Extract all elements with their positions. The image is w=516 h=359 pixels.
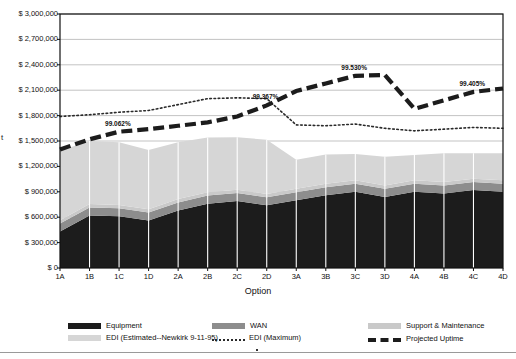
y-axis-tick: $ 2,700,000 xyxy=(0,35,58,43)
legend-item-projected-uptime: Projected Uptime xyxy=(368,333,464,343)
x-axis-tick: 4C xyxy=(461,272,485,281)
legend-label-support-maintenance: Support & Maintenance xyxy=(406,321,484,330)
legend-dotted-line-edi-maximum-icon xyxy=(212,333,245,341)
legend-footnote-dot-icon xyxy=(256,349,258,351)
y-axis-tick: $ 0 xyxy=(0,264,58,272)
legend-item-support-maintenance: Support & Maintenance xyxy=(368,321,484,330)
cost-option-area-chart: $ 0$ 300,000$ 600,000$ 900,000$ 1,200,00… xyxy=(0,0,516,359)
x-axis-title: Option xyxy=(0,286,516,296)
legend-swatch-equipment-icon xyxy=(68,323,101,329)
x-axis-tick: 2D xyxy=(255,272,279,281)
legend-item-edi-estimated: EDI (Estimated--Newkirk 9-11-95) xyxy=(68,333,218,342)
x-axis-tick: 3A xyxy=(284,272,308,281)
y-axis-tick: $ 900,000 xyxy=(0,188,58,196)
x-axis-tick: 2C xyxy=(225,272,249,281)
x-axis-tick: 1D xyxy=(137,272,161,281)
y-axis-tick-labels: $ 0$ 300,000$ 600,000$ 900,000$ 1,200,00… xyxy=(0,0,58,359)
x-axis-tick: 4A xyxy=(402,272,426,281)
x-axis-tick: 1B xyxy=(78,272,102,281)
x-axis-tick: 3C xyxy=(343,272,367,281)
legend-swatch-wan-icon xyxy=(212,323,245,329)
legend-dashed-line-projected-uptime-icon xyxy=(368,332,401,342)
legend-swatch-edi-estimated-icon xyxy=(68,335,101,341)
legend-label-edi-estimated: EDI (Estimated--Newkirk 9-11-95) xyxy=(106,333,218,342)
x-axis-tick: 1C xyxy=(107,272,131,281)
legend-label-projected-uptime: Projected Uptime xyxy=(406,334,464,343)
bottom-divider xyxy=(0,352,516,353)
legend-label-equipment: Equipment xyxy=(106,321,142,330)
y-axis-tick: $ 1,800,000 xyxy=(0,112,58,120)
y-axis-tick: $ 1,500,000 xyxy=(0,137,58,145)
plot-area xyxy=(0,0,516,359)
uptime-percent-label: 99.062% xyxy=(105,120,131,127)
x-axis-tick: 1A xyxy=(48,272,72,281)
legend-label-edi-maximum: EDI (Maximum) xyxy=(249,333,301,342)
x-axis-tick: 3D xyxy=(373,272,397,281)
uptime-percent-label: 99.530% xyxy=(341,64,367,71)
x-axis-tick: 2B xyxy=(196,272,220,281)
y-axis-tick: $ 3,000,000 xyxy=(0,10,58,18)
uptime-percent-label: 99.405% xyxy=(459,80,485,87)
y-axis-tick: $ 1,200,000 xyxy=(0,162,58,170)
legend-label-wan: WAN xyxy=(250,321,267,330)
chart-legend: Equipment EDI (Estimated--Newkirk 9-11-9… xyxy=(0,318,516,350)
y-axis-tick: $ 2,400,000 xyxy=(0,61,58,69)
x-axis-tick: 4B xyxy=(432,272,456,281)
legend-swatch-support-icon xyxy=(368,323,401,329)
x-axis-tick: 2A xyxy=(166,272,190,281)
x-axis-tick: 4D xyxy=(491,272,515,281)
legend-item-wan: WAN xyxy=(212,321,267,330)
legend-item-edi-maximum: EDI (Maximum) xyxy=(212,333,301,342)
x-axis-tick: 3B xyxy=(314,272,338,281)
legend-item-equipment: Equipment xyxy=(68,321,142,330)
uptime-percent-label: 99.367% xyxy=(253,93,279,100)
y-axis-tick: $ 300,000 xyxy=(0,239,58,247)
y-axis-title: t xyxy=(1,133,3,142)
y-axis-tick: $ 600,000 xyxy=(0,213,58,221)
y-axis-tick: $ 2,100,000 xyxy=(0,86,58,94)
